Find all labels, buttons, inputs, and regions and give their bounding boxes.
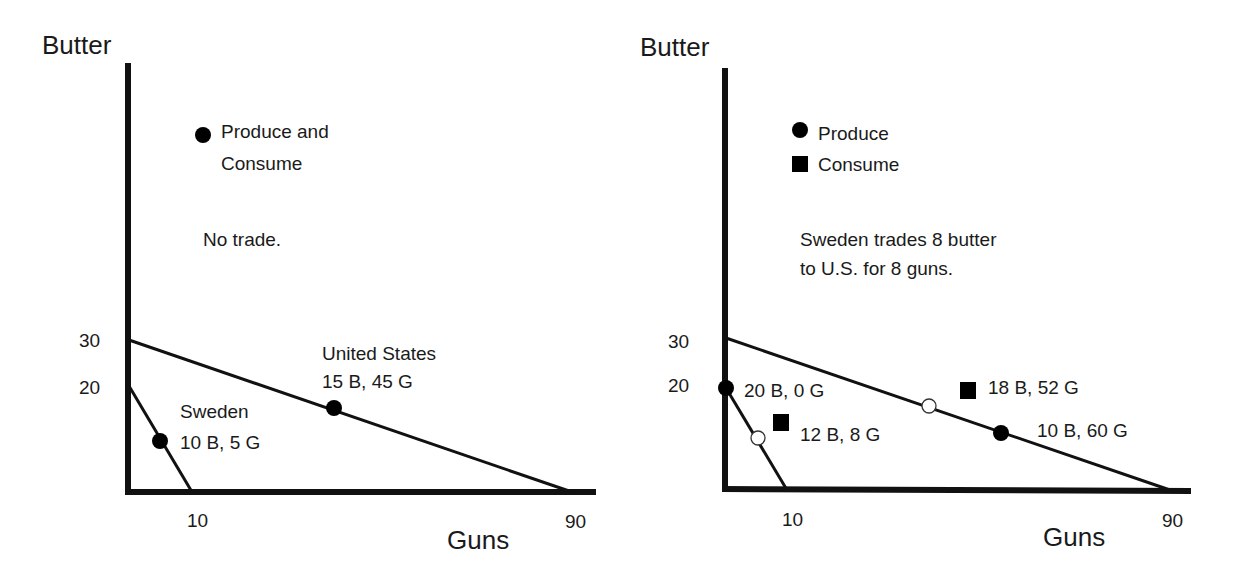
y-axis-title: Butter xyxy=(640,32,710,62)
us-coords-label: 15 B, 45 G xyxy=(322,371,413,392)
x-tick-10: 10 xyxy=(187,510,208,531)
legend-produce-consume-icon xyxy=(195,127,211,143)
legend-consume-label: Consume xyxy=(818,154,899,175)
sweden-coords-label: 10 B, 5 G xyxy=(180,432,260,453)
no-trade-annotation: No trade. xyxy=(203,229,281,250)
us-consume-point xyxy=(960,382,976,399)
x-tick-90: 90 xyxy=(565,511,586,532)
sweden-consume-label: 12 B, 8 G xyxy=(800,424,880,445)
sweden-produce-point xyxy=(718,380,734,396)
sweden-produce-label: 20 B, 0 G xyxy=(744,380,824,401)
ppf-figure: Butter 30 20 10 90 Guns United States 15… xyxy=(0,0,1237,579)
x-axis-title: Guns xyxy=(447,525,509,555)
sweden-consume-point xyxy=(773,414,789,431)
y-tick-30: 30 xyxy=(79,330,100,351)
us-autarky-open-circle xyxy=(922,399,936,413)
trade-annotation-line1: Sweden trades 8 butter xyxy=(800,229,997,250)
chart-no-trade: Butter 30 20 10 90 Guns United States 15… xyxy=(42,30,596,555)
us-produce-label: 10 B, 60 G xyxy=(1037,420,1128,441)
us-produce-consume-point xyxy=(326,400,342,416)
y-tick-20: 20 xyxy=(668,375,689,396)
us-consume-label: 18 B, 52 G xyxy=(988,377,1079,398)
us-ppf-line xyxy=(726,338,1170,490)
y-tick-20: 20 xyxy=(79,377,100,398)
x-axis-title: Guns xyxy=(1043,522,1105,552)
x-tick-90: 90 xyxy=(1162,510,1183,531)
y-tick-30: 30 xyxy=(668,331,689,352)
x-axis xyxy=(722,489,1191,491)
legend-produce-label: Produce xyxy=(818,123,889,144)
chart-with-trade: Butter 30 20 10 90 Guns 20 B, 0 G 12 B, … xyxy=(640,32,1191,552)
legend-label-line1: Produce and xyxy=(221,121,329,142)
sweden-autarky-open-circle xyxy=(751,431,765,445)
x-tick-10: 10 xyxy=(782,509,803,530)
legend-label-line2: Consume xyxy=(221,153,302,174)
legend-produce-icon xyxy=(792,122,808,138)
legend-consume-icon xyxy=(792,156,808,172)
sweden-produce-consume-point xyxy=(152,433,168,449)
us-label: United States xyxy=(322,343,436,364)
us-produce-point xyxy=(993,425,1009,441)
trade-annotation-line2: to U.S. for 8 guns. xyxy=(800,258,953,279)
sweden-label: Sweden xyxy=(180,401,249,422)
y-axis-title: Butter xyxy=(42,30,112,60)
